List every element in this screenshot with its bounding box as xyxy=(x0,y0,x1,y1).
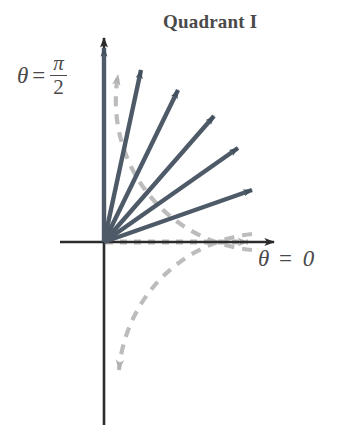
equals-sign-right: = xyxy=(279,246,292,271)
quadrant-i-diagram: Quadrant I θ = π 2 θ = 0 xyxy=(0,0,349,433)
fraction-numerator: π xyxy=(50,53,67,76)
pi-over-two-fraction: π 2 xyxy=(50,53,67,99)
theta-zero-label: θ = 0 xyxy=(258,247,314,270)
ray-2 xyxy=(104,70,141,242)
theta-zero-value: 0 xyxy=(303,246,315,271)
theta-symbol-right: θ xyxy=(258,246,269,271)
sweep-arc-group xyxy=(116,75,252,370)
axes-group xyxy=(60,38,274,425)
fraction-denominator: 2 xyxy=(50,76,67,98)
sweep-arc-lower xyxy=(119,234,252,370)
equals-sign-left: = xyxy=(32,64,45,87)
theta-symbol-left: θ xyxy=(17,64,28,87)
theta-half-pi-label: θ = π 2 xyxy=(17,53,67,99)
quadrant-rays-group xyxy=(104,48,252,242)
page-title: Quadrant I xyxy=(163,12,257,31)
